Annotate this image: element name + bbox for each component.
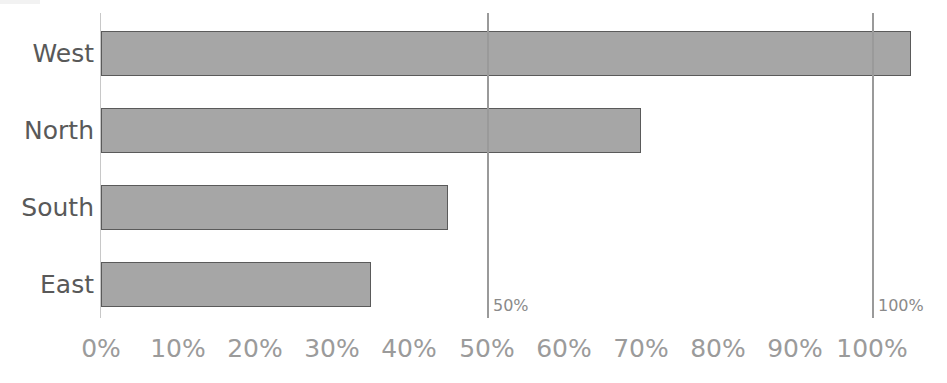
category-label-south: South <box>0 185 94 230</box>
bar-north[interactable] <box>101 108 641 153</box>
reference-line-50 <box>487 13 489 318</box>
xtick-label-30: 30% <box>304 334 360 363</box>
bar-south[interactable] <box>101 185 448 230</box>
reference-line-label-100: 100% <box>878 296 924 315</box>
xtick-label-70: 70% <box>613 334 669 363</box>
xtick-label-10: 10% <box>150 334 206 363</box>
xtick-label-20: 20% <box>227 334 283 363</box>
xtick-label-50: 50% <box>459 334 515 363</box>
reference-line-100 <box>872 13 874 318</box>
xtick-label-100: 100% <box>836 334 907 363</box>
bar-west[interactable] <box>101 31 911 76</box>
bar-chart: West North South East 50% 100% 0% 10% 20… <box>0 0 947 383</box>
xtick-label-90: 90% <box>767 334 823 363</box>
xtick-label-80: 80% <box>690 334 746 363</box>
xtick-label-60: 60% <box>536 334 592 363</box>
category-label-east: East <box>0 262 94 307</box>
top-crop-artifact <box>0 0 40 4</box>
category-label-west: West <box>0 31 94 76</box>
xtick-label-40: 40% <box>381 334 437 363</box>
bar-east[interactable] <box>101 262 371 307</box>
xtick-label-0: 0% <box>81 334 121 363</box>
reference-line-label-50: 50% <box>493 296 529 315</box>
category-label-north: North <box>0 108 94 153</box>
